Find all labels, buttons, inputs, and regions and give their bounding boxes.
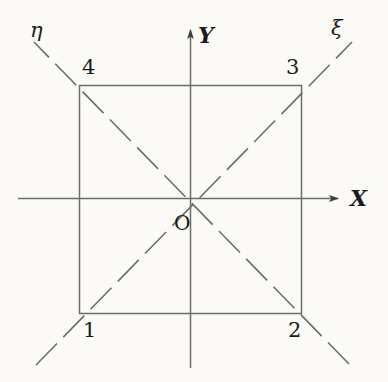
origin-label: O <box>174 213 190 233</box>
xi-axis-dashed-line <box>36 42 352 365</box>
figure-canvas: η ξ Y X O 4 3 1 2 <box>0 0 388 382</box>
diagram-svg <box>0 0 388 382</box>
eta-axis-label: η <box>30 20 43 41</box>
node-label-1: 1 <box>83 320 96 341</box>
xi-axis-label: ξ <box>331 18 343 39</box>
node-label-2: 2 <box>288 320 301 341</box>
xi-axis-group <box>36 42 352 365</box>
node-label-3: 3 <box>286 57 299 78</box>
node-label-4: 4 <box>82 57 95 78</box>
y-axis-label: Y <box>198 24 214 46</box>
x-axis-label: X <box>350 187 367 209</box>
